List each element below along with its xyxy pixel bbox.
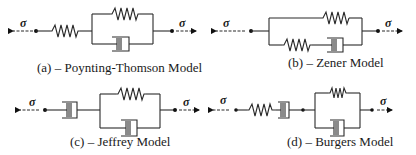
sigma-label-left: σ — [20, 16, 27, 30]
sigma-label-right: σ — [183, 95, 190, 109]
spring-icon — [116, 88, 146, 100]
spring-icon — [282, 39, 312, 51]
node-dot — [376, 29, 380, 33]
spring-icon — [110, 8, 140, 20]
caption-c: (c) – Jeffrey Model — [70, 134, 171, 149]
stress-arrow-right: σ — [382, 16, 402, 31]
stress-arrow-left: σ — [13, 16, 33, 31]
stress-arrow-left: σ — [20, 95, 39, 110]
dashpot-icon — [92, 37, 153, 51]
rheological-models-figure: σ σ (a) – Poynting-Thomson Model — [0, 0, 416, 155]
dashpot-icon — [62, 102, 100, 118]
node-dot — [173, 108, 177, 112]
sigma-label-right: σ — [385, 16, 392, 30]
sigma-label-right: σ — [380, 94, 387, 108]
spring-icon — [50, 25, 80, 37]
stress-arrow-left: σ — [216, 16, 245, 31]
node-dot — [170, 29, 174, 33]
dashpot-icon — [327, 38, 362, 52]
caption-a: (a) – Poynting-Thomson Model — [37, 60, 202, 75]
stress-arrow-right: σ — [176, 16, 196, 31]
stress-arrow-right: σ — [179, 95, 199, 110]
model-b-zener: σ σ (b) – Zener Model — [216, 12, 402, 70]
model-c-jeffrey: σ σ (c) – J — [20, 88, 199, 149]
sigma-label-left: σ — [29, 95, 36, 109]
dashpot-icon — [276, 102, 303, 118]
model-d-burgers: σ σ — [213, 88, 394, 149]
spring-icon — [247, 104, 276, 116]
stress-arrow-left: σ — [213, 93, 229, 110]
sigma-label-left: σ — [223, 16, 230, 30]
sigma-label-right: σ — [179, 16, 186, 30]
caption-b: (b) – Zener Model — [288, 55, 384, 70]
node-dot — [370, 108, 374, 112]
model-a-poynting-thomson: σ σ (a) – Poynting-Thomson Model — [13, 8, 202, 75]
caption-d: (d) – Burgers Model — [287, 134, 394, 149]
spring-icon — [321, 12, 349, 24]
spring-icon — [328, 88, 348, 98]
sigma-label-left: σ — [220, 93, 227, 107]
stress-arrow-right: σ — [377, 94, 392, 110]
